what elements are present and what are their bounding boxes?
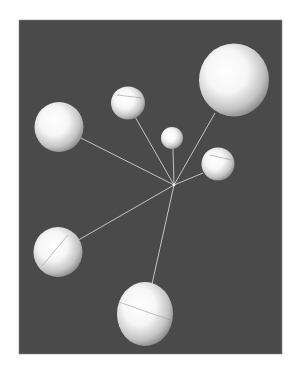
sphere-right-middle bbox=[202, 148, 235, 181]
central-hub-point bbox=[173, 184, 176, 187]
sphere-large-top-right bbox=[199, 44, 269, 117]
sphere-lower-left bbox=[34, 227, 83, 277]
sphere-bottom bbox=[117, 282, 173, 346]
sphere-small-top bbox=[111, 87, 145, 120]
sphere-center-small bbox=[161, 127, 183, 149]
ball-and-stick-diagram bbox=[0, 0, 297, 372]
sphere-left bbox=[35, 102, 84, 152]
